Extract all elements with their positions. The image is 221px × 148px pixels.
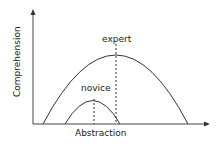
y-axis-arrow-icon	[31, 9, 36, 15]
novice-curve	[65, 101, 120, 125]
x-axis-label: Abstraction	[75, 128, 127, 138]
diagram-canvas	[0, 0, 221, 148]
expert-label: expert	[102, 34, 131, 44]
novice-label: novice	[81, 83, 111, 93]
y-axis-label: Comprehension	[12, 26, 22, 97]
x-axis-arrow-icon	[204, 122, 210, 127]
